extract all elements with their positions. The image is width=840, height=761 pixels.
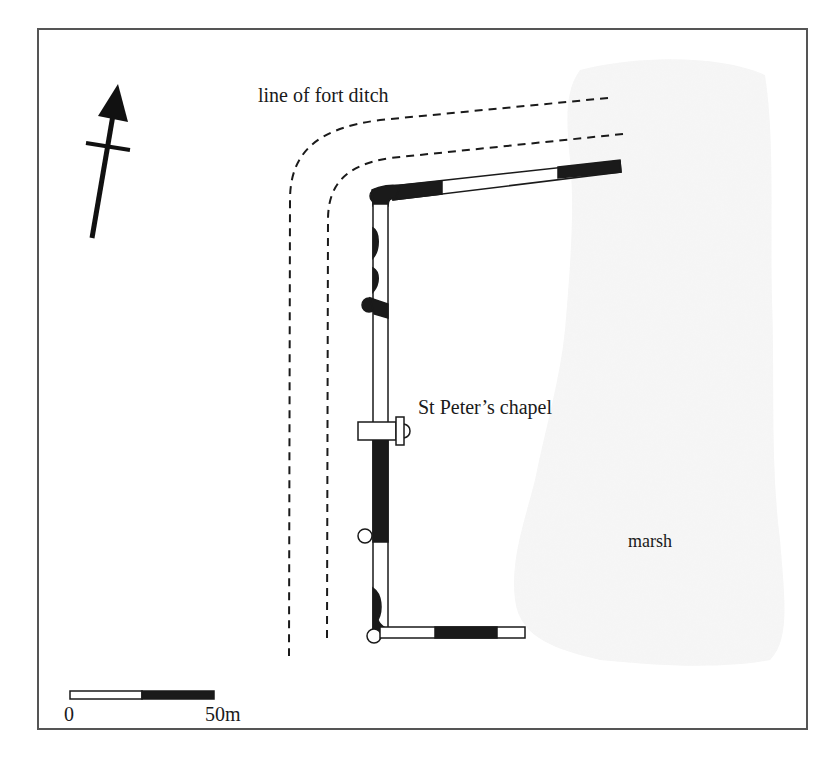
- north-wall-solid-west: [392, 181, 442, 200]
- scale-start-label: 0: [64, 703, 74, 726]
- site-plan-map: [0, 0, 840, 761]
- north-arrow-icon: [86, 84, 130, 238]
- scale-end-label: 50m: [205, 703, 241, 726]
- marsh-area: [514, 59, 784, 665]
- scale-bar: [70, 691, 214, 699]
- scale-bar-segment-white: [70, 691, 142, 699]
- south-wall-solid: [435, 627, 497, 638]
- scale-bar-segment-black: [142, 691, 214, 699]
- west-wall-outline: [373, 204, 388, 634]
- chapel-label: St Peter’s chapel: [418, 396, 552, 419]
- west-wall-tower-2: [358, 529, 372, 543]
- sw-corner-tower: [367, 629, 381, 643]
- west-wall-solid: [373, 440, 388, 542]
- fort-ditch-label: line of fort ditch: [258, 84, 389, 107]
- marsh-label: marsh: [628, 531, 672, 552]
